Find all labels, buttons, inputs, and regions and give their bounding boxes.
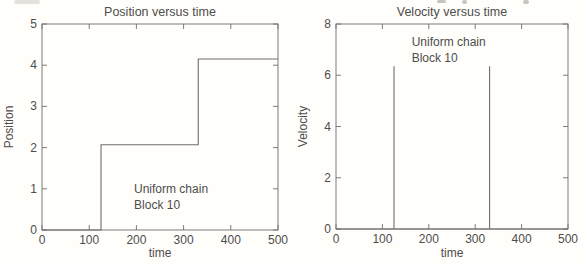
x-axis-tick-label: 100 xyxy=(372,232,392,246)
x-axis-tick-label: 0 xyxy=(333,232,340,246)
x-axis-tick-label: 0 xyxy=(39,233,46,247)
y-axis-tick-label: 0 xyxy=(324,222,331,236)
y-axis-tick-label: 1 xyxy=(30,182,37,196)
velocity-annotation: Uniform chain xyxy=(412,35,486,49)
x-axis-tick-label: 500 xyxy=(558,232,578,246)
velocity-plot-title: Velocity versus time xyxy=(397,5,508,19)
velocity-spike-trace xyxy=(336,66,568,229)
x-axis-tick-label: 400 xyxy=(512,232,532,246)
x-axis-tick-label: 200 xyxy=(419,232,439,246)
position-xlabel: time xyxy=(149,246,172,260)
x-axis-tick-label: 300 xyxy=(465,232,485,246)
position-annotation: Block 10 xyxy=(134,198,180,212)
scanned-figure-page: 0100200300400500012345Uniform chainBlock… xyxy=(0,0,584,265)
y-axis-tick-label: 2 xyxy=(324,171,331,185)
x-axis-tick-label: 300 xyxy=(174,233,194,247)
y-axis-tick-label: 6 xyxy=(324,68,331,82)
y-axis-tick-label: 4 xyxy=(30,58,37,72)
velocity-annotation: Block 10 xyxy=(412,51,458,65)
y-axis-tick-label: 8 xyxy=(324,17,331,31)
dual-plot-figure: 0100200300400500012345Uniform chainBlock… xyxy=(0,0,584,265)
position-plot-title: Position versus time xyxy=(104,5,216,19)
y-axis-tick-label: 0 xyxy=(30,223,37,237)
velocity-plot: 010020030040050002468Uniform chainBlock … xyxy=(296,5,578,260)
position-plot: 0100200300400500012345Uniform chainBlock… xyxy=(2,5,288,260)
x-axis-tick-label: 200 xyxy=(126,233,146,247)
velocity-xlabel: time xyxy=(441,246,464,260)
position-ylabel: Position xyxy=(2,106,16,149)
position-annotation: Uniform chain xyxy=(134,182,208,196)
x-axis-tick-label: 500 xyxy=(268,233,288,247)
y-axis-tick-label: 4 xyxy=(324,120,331,134)
velocity-ylabel: Velocity xyxy=(296,106,310,147)
x-axis-tick-label: 400 xyxy=(221,233,241,247)
x-axis-tick-label: 100 xyxy=(79,233,99,247)
y-axis-tick-label: 2 xyxy=(30,141,37,155)
y-axis-tick-label: 3 xyxy=(30,99,37,113)
y-axis-tick-label: 5 xyxy=(30,17,37,31)
